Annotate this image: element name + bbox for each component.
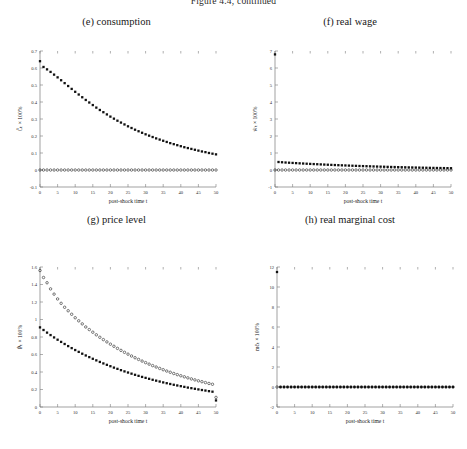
svg-text:0: 0: [35, 168, 38, 173]
svg-text:50: 50: [214, 190, 219, 195]
svg-text:10: 10: [269, 285, 274, 290]
scatter-plot-real-marginal-cost: 05101520253035404550-2024681012post-shoc…: [233, 229, 467, 444]
panel-title-consumption: (e) consumption: [0, 16, 233, 27]
svg-text:0: 0: [35, 405, 38, 410]
svg-text:10: 10: [310, 410, 315, 415]
svg-text:25: 25: [126, 190, 131, 195]
panel-title-price-level: (g) price level: [0, 214, 233, 225]
svg-text:45: 45: [196, 410, 201, 415]
svg-text:30: 30: [378, 190, 383, 195]
panel-title-real-wage: (f) real wage: [233, 16, 467, 27]
svg-text:ŵₜ × 100%: ŵₜ × 100%: [252, 106, 258, 131]
svg-text:0: 0: [274, 190, 277, 195]
svg-text:20: 20: [343, 190, 348, 195]
plot-consumption: 05101520253035404550-0.100.10.20.30.40.5…: [0, 31, 233, 216]
svg-text:40: 40: [414, 190, 419, 195]
svg-text:0.6: 0.6: [31, 66, 37, 71]
svg-text:20: 20: [345, 410, 350, 415]
svg-text:post-shock time t: post-shock time t: [109, 198, 148, 204]
svg-text:2: 2: [272, 365, 275, 370]
svg-text:post-shock time t: post-shock time t: [109, 418, 148, 424]
svg-text:4: 4: [272, 345, 275, 350]
svg-text:-0.1: -0.1: [30, 185, 38, 190]
svg-text:0: 0: [272, 385, 275, 390]
svg-text:25: 25: [126, 410, 131, 415]
svg-text:P̂ₜ × 100%: P̂ₜ × 100%: [17, 325, 23, 349]
svg-text:10: 10: [308, 190, 313, 195]
svg-text:6: 6: [272, 325, 275, 330]
svg-text:6: 6: [270, 66, 273, 71]
svg-text:Ĉₜ × 100%: Ĉₜ × 100%: [16, 106, 23, 131]
svg-text:post-shock time t: post-shock time t: [346, 418, 385, 424]
svg-text:45: 45: [196, 190, 201, 195]
svg-text:50: 50: [451, 410, 456, 415]
svg-text:25: 25: [361, 190, 366, 195]
plot-real-marginal-cost: 05101520253035404550-2024681012post-shoc…: [233, 229, 467, 444]
svg-text:2: 2: [270, 134, 273, 139]
panel-real-marginal-cost: (h) real marginal cost 05101520253035404…: [233, 214, 467, 449]
svg-text:5: 5: [293, 410, 296, 415]
svg-text:0.4: 0.4: [31, 370, 37, 375]
svg-text:-1: -1: [268, 185, 273, 190]
svg-text:35: 35: [161, 190, 166, 195]
svg-text:5: 5: [56, 410, 59, 415]
svg-text:15: 15: [91, 190, 96, 195]
panel-real-wage: (f) real wage 05101520253035404550-10123…: [233, 16, 467, 216]
svg-text:30: 30: [143, 410, 148, 415]
svg-text:0: 0: [276, 410, 279, 415]
svg-text:40: 40: [179, 190, 184, 195]
svg-text:0.1: 0.1: [31, 151, 37, 156]
svg-text:1: 1: [270, 151, 273, 156]
svg-text:0.5: 0.5: [31, 83, 37, 88]
svg-text:0: 0: [39, 190, 42, 195]
plot-real-wage: 05101520253035404550-101234567post-shock…: [233, 31, 467, 216]
svg-text:4: 4: [270, 100, 273, 105]
svg-text:40: 40: [179, 410, 184, 415]
svg-text:3: 3: [270, 117, 273, 122]
plot-price-level: 0510152025303540455000.20.40.60.811.21.4…: [0, 229, 233, 444]
svg-text:0.2: 0.2: [31, 387, 37, 392]
svg-text:-2: -2: [270, 405, 275, 410]
svg-text:15: 15: [91, 410, 96, 415]
svg-text:0.3: 0.3: [31, 117, 37, 122]
svg-text:35: 35: [161, 410, 166, 415]
svg-text:20: 20: [108, 190, 113, 195]
svg-text:post-shock time t: post-shock time t: [344, 198, 383, 204]
figure-panel-grid: (e) consumption 05101520253035404550-0.1…: [0, 16, 467, 449]
svg-text:12: 12: [269, 265, 274, 270]
figure-caption: Figure 4.4, continued: [0, 0, 467, 6]
svg-text:10: 10: [73, 190, 78, 195]
scatter-plot-consumption: 05101520253035404550-0.100.10.20.30.40.5…: [0, 31, 233, 216]
svg-text:mĉₜ × 100%: mĉₜ × 100%: [254, 323, 260, 351]
svg-text:0.7: 0.7: [31, 49, 37, 54]
svg-text:30: 30: [143, 190, 148, 195]
svg-text:45: 45: [431, 190, 436, 195]
svg-text:0: 0: [270, 168, 273, 173]
svg-text:7: 7: [270, 49, 273, 54]
svg-text:0: 0: [39, 410, 42, 415]
svg-text:0.2: 0.2: [31, 134, 37, 139]
svg-text:30: 30: [380, 410, 385, 415]
svg-text:25: 25: [363, 410, 368, 415]
svg-text:5: 5: [56, 190, 59, 195]
svg-text:1.4: 1.4: [31, 282, 37, 287]
svg-text:1.2: 1.2: [31, 300, 37, 305]
svg-text:0.6: 0.6: [31, 352, 37, 357]
svg-text:5: 5: [270, 83, 273, 88]
svg-text:20: 20: [108, 410, 113, 415]
svg-text:15: 15: [328, 410, 333, 415]
svg-text:50: 50: [214, 410, 219, 415]
svg-text:15: 15: [326, 190, 331, 195]
svg-text:35: 35: [396, 190, 401, 195]
svg-text:0.4: 0.4: [31, 100, 37, 105]
svg-text:35: 35: [398, 410, 403, 415]
svg-text:50: 50: [449, 190, 454, 195]
svg-text:45: 45: [433, 410, 438, 415]
scatter-plot-real-wage: 05101520253035404550-101234567post-shock…: [233, 31, 467, 216]
svg-text:5: 5: [291, 190, 294, 195]
panel-title-real-marginal-cost: (h) real marginal cost: [233, 214, 467, 225]
panel-price-level: (g) price level 0510152025303540455000.2…: [0, 214, 233, 449]
svg-text:8: 8: [272, 305, 275, 310]
svg-text:40: 40: [416, 410, 421, 415]
svg-text:1: 1: [35, 317, 38, 322]
